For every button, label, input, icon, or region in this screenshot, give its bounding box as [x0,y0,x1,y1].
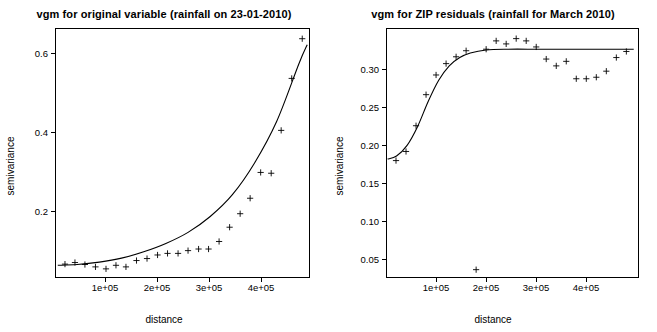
data-point-marker [205,246,211,252]
data-point-marker [513,36,519,42]
chart-panel-left: vgm for original variable (rainfall on 2… [0,0,328,332]
plot-graphics-right [329,0,657,332]
data-point-marker [503,41,509,47]
data-point-marker [227,224,233,230]
data-point-marker [493,38,499,44]
data-point-marker [144,255,150,261]
data-point-marker [92,264,98,270]
data-point-marker [543,56,549,62]
data-point-marker [103,266,109,272]
data-point-marker [443,61,449,67]
data-point-marker [563,58,569,64]
data-point-marker [185,248,191,254]
fitted-variogram-line [388,49,634,159]
data-point-marker [553,63,559,69]
data-point-marker [175,250,181,256]
data-point-marker [413,123,419,129]
data-point-marker [164,250,170,256]
data-point-marker [113,262,119,268]
chart-panel-right: vgm for ZIP residuals (rainfall for Marc… [329,0,657,332]
data-point-marker [195,246,201,252]
data-point-marker [133,257,139,263]
data-point-marker [523,38,529,44]
data-point-marker [237,211,243,217]
data-point-marker [62,261,68,267]
data-point-marker [463,48,469,54]
data-point-marker [593,74,599,80]
data-point-marker [278,127,284,133]
data-point-marker [433,72,439,78]
figure-canvas: vgm for original variable (rainfall on 2… [0,0,657,332]
data-point-marker [216,238,222,244]
plot-graphics-left [0,0,328,332]
data-point-marker [603,68,609,74]
data-point-marker [82,261,88,267]
data-point-marker [423,92,429,98]
data-point-marker [483,46,489,52]
data-point-marker [613,54,619,60]
data-point-marker [393,157,399,163]
data-point-marker [123,264,129,270]
data-point-marker [268,170,274,176]
data-point-marker [583,76,589,82]
data-point-marker [299,36,305,42]
data-point-marker [573,76,579,82]
data-point-marker [154,252,160,258]
fitted-variogram-line [58,45,307,266]
data-point-marker [473,267,479,273]
data-point-marker [258,169,264,175]
data-point-marker [247,195,253,201]
